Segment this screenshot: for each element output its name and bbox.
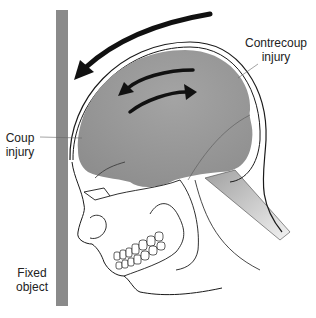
contrecoup-label-line1: Contrecoup bbox=[238, 36, 314, 50]
contrecoup-label-line2: injury bbox=[238, 50, 314, 64]
contrecoup-leader bbox=[238, 64, 258, 78]
nose-detail bbox=[90, 215, 106, 238]
fixed-object-bar bbox=[56, 10, 68, 306]
fixed-object-label: Fixed object bbox=[12, 266, 52, 294]
spinal-cord bbox=[205, 170, 290, 240]
coup-label-line2: injury bbox=[2, 145, 38, 159]
coup-label-line1: Coup bbox=[2, 131, 38, 145]
brain bbox=[78, 50, 252, 187]
fixed-label-line2: object bbox=[12, 280, 52, 294]
fixed-label-line1: Fixed bbox=[12, 266, 52, 280]
contrecoup-injury-label: Contrecoup injury bbox=[238, 36, 314, 64]
coup-injury-label: Coup injury bbox=[2, 131, 38, 159]
eye-socket bbox=[84, 188, 110, 200]
